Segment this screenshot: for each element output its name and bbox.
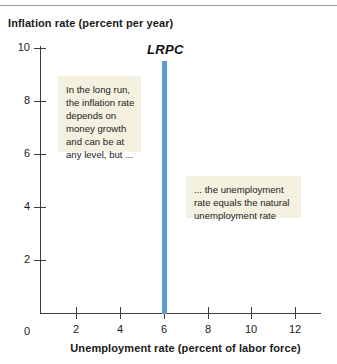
y-tick-mark-6 bbox=[34, 154, 46, 155]
x-tick-label-12: 12 bbox=[280, 324, 310, 335]
lrpc-curve-label: LRPC bbox=[147, 42, 184, 57]
y-tick-label-4: 4 bbox=[4, 201, 30, 212]
annotation-callout-left: In the long run, the inflation rate depe… bbox=[58, 76, 141, 152]
lrpc-curve-line bbox=[162, 61, 167, 314]
x-axis-title: Unemployment rate (percent of labor forc… bbox=[0, 342, 337, 354]
y-axis-title: Inflation rate (percent per year) bbox=[8, 17, 173, 29]
x-axis-line bbox=[40, 313, 321, 314]
x-tick-mark-8 bbox=[208, 307, 209, 319]
x-tick-label-6: 6 bbox=[149, 324, 179, 335]
x-tick-label-10: 10 bbox=[236, 324, 266, 335]
x-tick-mark-2 bbox=[76, 307, 77, 319]
y-tick-label-8: 8 bbox=[4, 95, 30, 106]
x-tick-mark-12 bbox=[295, 307, 296, 319]
y-tick-mark-4 bbox=[34, 207, 46, 208]
x-tick-label-4: 4 bbox=[105, 324, 135, 335]
y-tick-mark-2 bbox=[34, 260, 46, 261]
x-tick-mark-4 bbox=[120, 307, 121, 319]
y-tick-label-0: 0 bbox=[4, 326, 30, 337]
long-run-phillips-curve-figure: Inflation rate (percent per year) Unempl… bbox=[0, 0, 337, 364]
x-tick-mark-10 bbox=[251, 307, 252, 319]
x-tick-label-8: 8 bbox=[193, 324, 223, 335]
y-tick-label-10: 10 bbox=[4, 42, 30, 53]
annotation-callout-right: ... the unemployment rate equals the nat… bbox=[186, 176, 301, 218]
y-tick-label-2: 2 bbox=[4, 254, 30, 265]
y-tick-mark-10 bbox=[34, 48, 46, 49]
y-tick-mark-8 bbox=[34, 101, 46, 102]
x-tick-label-2: 2 bbox=[61, 324, 91, 335]
y-tick-label-6: 6 bbox=[4, 148, 30, 159]
y-axis-line bbox=[40, 46, 41, 314]
